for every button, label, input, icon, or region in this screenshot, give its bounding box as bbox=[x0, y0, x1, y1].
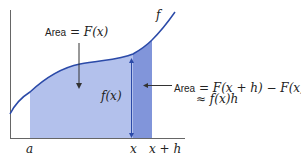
tick-a-label: a bbox=[26, 142, 33, 156]
area-strip-x-to-xh bbox=[133, 40, 152, 138]
curve-f-label: f bbox=[156, 8, 160, 22]
area-fx-label: Area = F(x) bbox=[45, 22, 108, 40]
tick-xh-label: x + h bbox=[149, 142, 181, 156]
height-fx-label: f(x) bbox=[101, 89, 122, 103]
strip-approx-label: ≈ f(x)h bbox=[196, 92, 238, 106]
tick-x-label: x bbox=[130, 142, 137, 156]
